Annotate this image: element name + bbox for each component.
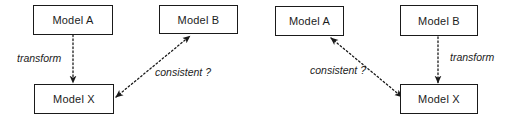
edge-label-right-transform: transform xyxy=(450,51,494,63)
node-right-model-b[interactable]: Model B xyxy=(400,5,478,36)
node-left-model-x[interactable]: Model X xyxy=(34,84,114,114)
node-left-model-b[interactable]: Model B xyxy=(159,5,238,34)
node-label: Model X xyxy=(418,93,460,105)
node-label: Model X xyxy=(53,93,95,105)
node-label: Model B xyxy=(178,14,220,26)
node-right-model-x[interactable]: Model X xyxy=(400,84,478,114)
edge-label-left-transform: transform xyxy=(17,52,61,64)
node-label: Model A xyxy=(289,15,330,27)
edge-label-right-consistent: consistent ? xyxy=(310,64,366,76)
diagram-canvas: Model A Model B Model X transform consis… xyxy=(0,0,513,123)
node-label: Model A xyxy=(52,14,93,26)
node-left-model-a[interactable]: Model A xyxy=(33,5,113,35)
node-right-model-a[interactable]: Model A xyxy=(275,6,344,36)
edge-label-left-consistent: consistent ? xyxy=(155,66,211,78)
node-label: Model B xyxy=(418,15,460,27)
